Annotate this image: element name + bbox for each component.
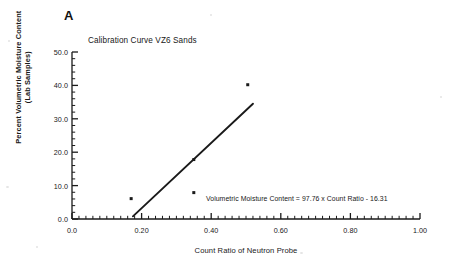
data-point-group — [130, 83, 250, 200]
y-tick-label: 0.0 — [42, 215, 68, 224]
x-tick-label: 0.0 — [52, 226, 92, 235]
x-tick-label: 0.80 — [330, 226, 370, 235]
scan-artifact — [300, 252, 303, 254]
y-axis-title-line-2: (Lab Samples) — [23, 0, 32, 162]
y-tick-label: 30.0 — [42, 114, 68, 123]
y-tick-label: 50.0 — [42, 48, 68, 57]
scan-artifact — [36, 246, 38, 248]
x-tick-marks — [72, 213, 420, 219]
figure-panel: A Calibration Curve VZ6 Sands Percent Vo… — [0, 0, 453, 265]
data-point-marker — [130, 197, 133, 200]
x-tick-label: 0.40 — [191, 226, 231, 235]
x-axis-title: Count Ratio of Neutron Probe — [72, 246, 420, 255]
y-axis-title: Percent Volumetric Moisture Content (Lab… — [14, 0, 32, 162]
data-point-marker — [192, 158, 195, 161]
axes-group — [72, 52, 420, 219]
x-tick-label: 0.20 — [122, 226, 162, 235]
x-tick-label: 0.60 — [261, 226, 301, 235]
y-tick-label: 10.0 — [42, 181, 68, 190]
scan-artifact — [6, 186, 9, 188]
data-point-marker — [246, 83, 249, 86]
y-tick-label: 20.0 — [42, 148, 68, 157]
x-tick-label: 1.00 — [400, 226, 440, 235]
scan-artifact — [210, 14, 212, 16]
data-point-marker — [192, 191, 195, 194]
y-axis-title-line-1: Percent Volumetric Moisture Content — [14, 0, 23, 162]
scan-artifact — [8, 40, 10, 42]
scan-artifact — [440, 96, 442, 98]
regression-equation-annotation: Volumetric Moisture Content = 97.76 x Co… — [206, 195, 388, 202]
x-tick-label-group: 0.00.200.400.600.801.00 — [0, 226, 453, 240]
y-tick-label: 40.0 — [42, 81, 68, 90]
y-tick-marks — [72, 52, 78, 219]
chart-title: Calibration Curve VZ6 Sands — [88, 36, 197, 45]
